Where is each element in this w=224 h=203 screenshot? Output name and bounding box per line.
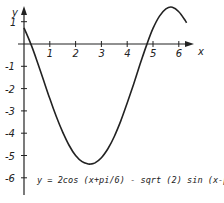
function-curve (24, 7, 187, 164)
y-tick-label: -5 (5, 151, 15, 162)
x-axis-arrow-icon (185, 41, 194, 47)
y-tick-label: -6 (5, 173, 15, 184)
y-tick-label: -4 (5, 128, 15, 139)
x-tick-label: 1 (47, 48, 53, 59)
x-tick-label: 4 (124, 48, 130, 59)
formula-annotation: y = 2cos (x+pi/6) - sqrt (2) sin (x-pi/2… (36, 175, 224, 185)
y-tick-label: -3 (5, 106, 15, 117)
function-plot: x y 123456 1-1-2-3-4-5-6 y = 2cos (x+pi/… (0, 0, 224, 203)
x-tick-label: 6 (176, 48, 182, 59)
x-axis-label: x (197, 46, 204, 57)
y-axis-arrow-icon (21, 6, 27, 15)
y-tick-label: 1 (10, 17, 16, 28)
y-tick-label: -2 (5, 84, 15, 95)
y-axis: y (11, 6, 27, 195)
x-tick-label: 3 (98, 48, 104, 59)
y-tick-label: -1 (5, 61, 15, 72)
x-tick-label: 5 (150, 48, 156, 59)
x-tick-label: 2 (73, 48, 79, 59)
